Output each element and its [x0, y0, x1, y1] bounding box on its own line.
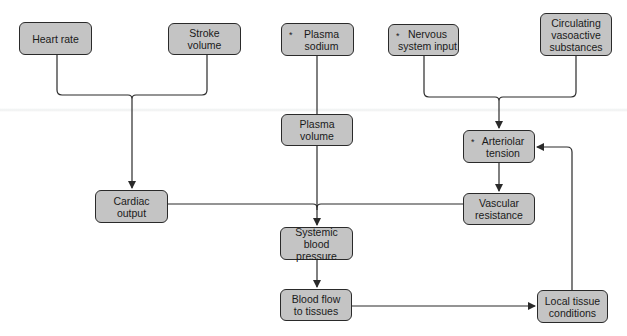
- node-plasma-volume: Plasma volume: [281, 114, 353, 146]
- node-label: Circulating vasoactive substances: [549, 17, 602, 53]
- node-label: Plasma sodium: [296, 28, 339, 52]
- node-label: Arteriolar tension: [474, 135, 525, 159]
- node-label: Cardiac output: [113, 195, 149, 219]
- asterisk-icon: *: [289, 29, 293, 41]
- node-circulating-vasoactive-substances: Circulating vasoactive substances: [540, 13, 612, 56]
- asterisk-icon: *: [471, 136, 475, 148]
- node-blood-flow-to-tissues: Blood flow to tissues: [280, 289, 352, 321]
- node-arteriolar-tension: * Arteriolar tension: [463, 130, 535, 163]
- node-heart-rate: Heart rate: [19, 22, 92, 55]
- node-label: Heart rate: [32, 33, 79, 45]
- node-local-tissue-conditions: Local tissue conditions: [537, 290, 608, 323]
- node-label: Nervous system input: [390, 28, 457, 52]
- node-label: Stroke volume: [188, 27, 222, 51]
- node-label: Plasma volume: [299, 118, 334, 142]
- node-label: Blood flow to tissues: [292, 293, 340, 317]
- node-cardiac-output: Cardiac output: [95, 190, 168, 223]
- node-systemic-blood-pressure: Systemic blood pressure: [280, 227, 353, 260]
- node-vascular-resistance: Vascular resistance: [463, 193, 535, 225]
- node-nervous-system-input: * Nervous system input: [388, 24, 459, 56]
- node-stroke-volume: Stroke volume: [168, 23, 241, 55]
- node-label: Local tissue conditions: [545, 295, 600, 319]
- node-plasma-sodium: * Plasma sodium: [281, 23, 354, 56]
- node-label: Systemic blood pressure: [281, 226, 352, 262]
- node-label: Vascular resistance: [475, 197, 523, 221]
- asterisk-icon: *: [396, 30, 400, 42]
